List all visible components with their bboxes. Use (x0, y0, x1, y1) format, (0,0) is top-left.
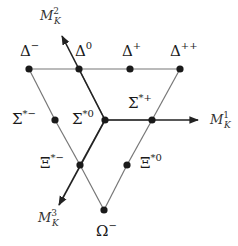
label-sigma-star-plus: Σ*+ (128, 92, 152, 112)
axis-label-M3: M3K (37, 208, 60, 228)
edge-delta-plusplus-sigma-star-plus (152, 69, 180, 120)
node-xi-star-zero (123, 161, 130, 168)
label-xi-star-minus: Ξ*− (40, 152, 64, 172)
label-xi-star-zero: Ξ*0 (140, 152, 162, 172)
node-sigma-star-minus (51, 116, 58, 123)
node-omega-minus (100, 206, 107, 213)
node-delta-plus (126, 65, 133, 72)
label-sigma-star-zero: Σ*0 (72, 108, 94, 128)
edge-xi-star-minus-omega-minus (80, 165, 104, 210)
node-delta-zero (75, 65, 82, 72)
node-delta-plusplus (176, 65, 183, 72)
axis-label-M2: M2K (39, 6, 62, 26)
label-sigma-star-minus: Σ*− (12, 108, 36, 128)
node-sigma-star-zero (101, 116, 108, 123)
decuplet-diagram: Δ−Δ0Δ+Δ++Σ*−Σ*0Σ*+Ξ*−Ξ*0Ω− M1KM2KM3K (0, 0, 238, 246)
label-delta-plus: Δ+ (122, 40, 141, 60)
label-omega-minus: Ω− (96, 220, 117, 240)
node-xi-star-minus (76, 161, 83, 168)
axis-label-M1: M1K (209, 110, 232, 130)
node-delta-minus (25, 65, 32, 72)
particle-nodes (25, 65, 183, 213)
label-delta-plusplus: Δ++ (170, 40, 198, 60)
label-delta-zero: Δ0 (75, 40, 92, 60)
label-delta-minus: Δ− (20, 40, 39, 60)
edge-xi-star-zero-omega-minus (104, 165, 127, 210)
node-sigma-star-plus (148, 116, 155, 123)
edge-lines (29, 69, 180, 210)
